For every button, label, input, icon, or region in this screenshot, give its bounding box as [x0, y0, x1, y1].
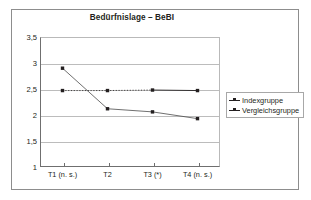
x-tick-label: T1 (n. s.) [48, 170, 77, 179]
vergleichsgruppe-point-0 [61, 89, 64, 92]
vergleichsgruppe-point-3 [196, 89, 199, 92]
chart-title: Bedürfnislage – BeBI [40, 13, 224, 22]
legend-label: Vergleichsgruppe [242, 106, 299, 115]
x-tick-label: T4 (n. s.) [183, 170, 212, 179]
indexgruppe-point-0 [61, 67, 64, 70]
y-tick-label: 2 [33, 111, 37, 120]
legend-label: Indexgruppe [242, 96, 283, 105]
series-indexgruppe-line [63, 68, 198, 118]
legend-marker-icon [229, 106, 240, 114]
x-tick-label: T2 [103, 170, 112, 179]
legend-item-indexgruppe: Indexgruppe [229, 95, 299, 105]
indexgruppe-point-3 [196, 117, 199, 120]
indexgruppe-point-1 [106, 107, 109, 110]
y-tick-label: 1,5 [26, 137, 37, 146]
y-tick-label: 2,5 [26, 85, 37, 94]
y-tick-label: 1 [33, 163, 37, 172]
series-vergleichsgruppe-line-solid [153, 90, 198, 91]
y-tick-label: 3 [33, 59, 37, 68]
series-indexgruppe-markers [61, 67, 199, 121]
series-layer [40, 37, 220, 167]
x-axis: T1 (n. s.) T2 T3 (*) T4 (n. s.) [40, 170, 220, 188]
legend: Indexgruppe Vergleichsgruppe [226, 92, 304, 118]
indexgruppe-point-2 [151, 110, 154, 113]
legend-marker-icon [229, 96, 240, 104]
legend-item-vergleichsgruppe: Vergleichsgruppe [229, 105, 299, 115]
vergleichsgruppe-point-1 [106, 89, 109, 92]
chart-figure: Bedürfnislage – BeBI 3,5 3 2,5 2 1,5 1 T… [0, 0, 311, 200]
vergleichsgruppe-point-2 [151, 88, 154, 91]
y-tick-label: 3,5 [26, 33, 37, 42]
x-tick-label: T3 (*) [143, 170, 161, 179]
y-axis: 3,5 3 2,5 2 1,5 1 [12, 37, 37, 167]
